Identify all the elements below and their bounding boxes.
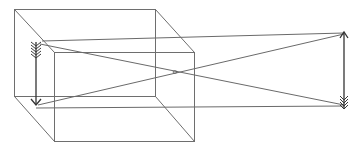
ray-top-upper bbox=[42, 33, 344, 41]
box-edge-top-right bbox=[156, 10, 195, 53]
ray-bottom-upper bbox=[40, 44, 344, 105]
pinhole-camera-diagram: Pinhole camera (camera obscura) image in… bbox=[0, 0, 361, 152]
pinhole bbox=[173, 71, 177, 73]
image-arrow bbox=[31, 42, 41, 105]
pinhole-aperture-icon bbox=[173, 71, 177, 73]
object-arrow bbox=[340, 32, 348, 109]
camera-box bbox=[15, 10, 195, 142]
box-edge-bottom-right bbox=[156, 97, 195, 142]
ray-top-lower bbox=[38, 34, 344, 105]
ray-bottom-lower bbox=[36, 106, 344, 108]
